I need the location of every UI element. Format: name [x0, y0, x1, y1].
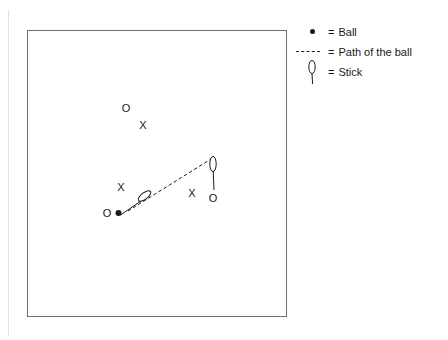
- legend-equals-stick: =: [328, 64, 334, 80]
- field-boundary: [28, 31, 287, 317]
- legend-label-stick: Stick: [338, 64, 362, 80]
- legend-entry-path: = Path of the ball: [294, 44, 412, 60]
- defense-marker-left: X: [117, 181, 125, 193]
- legend-equals-path: =: [328, 44, 334, 60]
- offense-marker-left: O: [103, 207, 112, 219]
- defense-marker-right: X: [188, 187, 196, 199]
- screenshot-root: O X X O X O = Ball: [0, 0, 448, 340]
- legend-entry-stick: = Stick: [294, 64, 362, 80]
- legend-equals-ball: =: [328, 24, 334, 40]
- offense-marker-upper: O: [122, 102, 131, 114]
- legend-label-ball: Ball: [338, 24, 356, 40]
- offense-marker-right: O: [209, 192, 218, 204]
- legend-entry-ball: = Ball: [294, 24, 357, 40]
- legend-label-path: Path of the ball: [338, 44, 411, 60]
- ball-dot-icon: [294, 24, 328, 40]
- dashed-line-icon: [294, 44, 328, 60]
- defense-marker-upper: X: [139, 119, 147, 131]
- stick-icon: [294, 64, 328, 80]
